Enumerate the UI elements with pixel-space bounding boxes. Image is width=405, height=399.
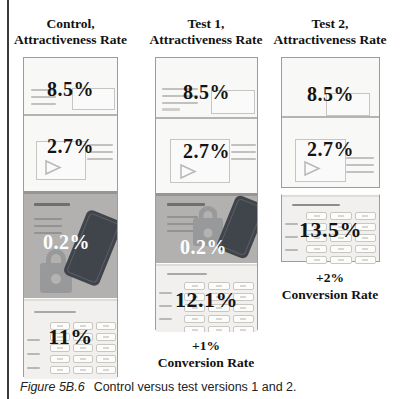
book-page: Control, Attractiveness Rate Test 1, Att… [0,0,405,399]
figure-caption-text: Control versus test versions 1 and 2. [94,380,297,394]
page-margin-rule [7,0,9,399]
video-panel: 2.7% [156,119,257,193]
conversion-label: Conversion Rate [269,286,391,303]
title-line-icon [34,311,76,313]
keypad-key [306,245,327,253]
keypad-key [233,326,254,332]
keypad-key [330,256,351,264]
keypad-key [50,355,70,363]
header-line1: Test 1, [145,16,267,32]
text-line-icon [34,225,62,227]
security-panel: 0.2% [156,193,257,263]
figure-caption-label: Figure 5B.6 [20,380,85,394]
header-line1: Test 2, [269,16,391,32]
keypad-key [355,245,376,253]
control-mockup-stack: 8.5% 2.7% 0.2% [23,57,118,377]
keypad-key [208,315,229,323]
video-panel: 2.7% [24,116,117,191]
conversion-label: Conversion Rate [145,354,267,371]
title-line-icon [292,204,340,206]
column-header-test2: Test 2, Attractiveness Rate [269,16,391,48]
test1-mockup-stack: 8.5% 2.7% 0.2% [155,57,258,330]
security-attractiveness-rate: 0.2% [24,231,117,253]
text-line-icon [162,108,180,111]
keypad-key [50,366,70,374]
video-panel: 2.7% [282,118,379,187]
play-button-icon [303,160,321,177]
email-attractiveness-rate: 8.5% [282,83,379,105]
header-line1: Control, [10,16,131,32]
column-header-control: Control, Attractiveness Rate [10,16,131,48]
security-panel: 0.2% [24,191,117,298]
conversion-delta: +2% [269,269,391,286]
test2-form-panel: 13.5% [281,194,380,262]
form-field-line-icon [285,249,298,251]
form-field-line-icon [27,353,40,355]
email-attractiveness-rate: 8.5% [24,78,117,100]
keypad-key [73,355,93,363]
keypad-key [73,366,93,374]
conversion-delta: +1% [145,337,267,354]
form-field-line-icon [27,367,40,369]
header-line2: Attractiveness Rate [145,32,267,48]
text-line-icon [346,171,374,173]
column-header-test1: Test 1, Attractiveness Rate [145,16,267,48]
form-conversion-rate: 13.5% [282,218,379,242]
text-line-icon [31,103,56,105]
header-line2: Attractiveness Rate [269,32,391,48]
keypad-key [208,326,229,332]
form-panel: 11% [24,298,117,379]
test2-mockup-stack: 8.5% 2.7% [281,57,380,188]
keypad-key [184,326,205,332]
keypad-key [306,256,327,264]
play-button-icon [179,163,197,180]
conversion-rate-label-test1: +1% Conversion Rate [145,337,267,371]
keypad-key [233,315,254,323]
keypad-key [355,256,376,264]
figure-caption: Figure 5B.6Control versus test versions … [20,380,297,394]
keypad-key [184,315,205,323]
title-line-icon [34,203,70,206]
form-field-line-icon [159,318,172,320]
play-button-icon [44,159,62,176]
email-panel: 8.5% [282,58,379,118]
keypad-key [96,366,116,374]
video-attractiveness-rate: 2.7% [282,138,379,160]
form-panel: 12.1% [156,263,257,332]
form-conversion-rate: 12.1% [156,288,257,312]
title-line-icon [167,273,207,275]
header-line2: Attractiveness Rate [10,32,131,48]
video-attractiveness-rate: 2.7% [156,140,257,162]
video-attractiveness-rate: 2.7% [24,135,117,157]
security-attractiveness-rate: 0.2% [156,236,257,258]
email-panel: 8.5% [156,58,257,119]
text-line-icon [87,158,113,160]
text-line-icon [34,218,62,220]
conversion-rate-label-test2: +2% Conversion Rate [269,269,391,303]
email-panel: 8.5% [24,58,117,116]
form-conversion-rate: 11% [24,325,117,349]
email-attractiveness-rate: 8.5% [156,81,257,103]
keypad-key [96,355,116,363]
text-line-icon [346,164,374,166]
keypad-key [330,245,351,253]
